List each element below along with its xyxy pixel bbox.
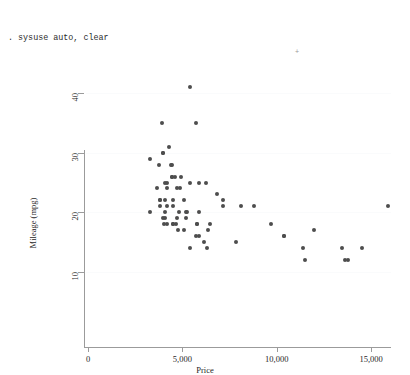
scatter-point [346, 258, 350, 262]
x-tick-0 [88, 347, 89, 352]
y-tick-label-text: 10 [69, 272, 79, 281]
plot-region [86, 150, 391, 346]
scatter-point [269, 222, 273, 226]
scatter-point [157, 163, 161, 167]
scatter-point [188, 246, 192, 250]
x-axis-line [84, 347, 391, 348]
scatter-point [208, 222, 212, 226]
scatter-point [194, 121, 198, 125]
scatter-point [176, 228, 180, 232]
scatter-point [204, 181, 208, 185]
scatter-point [221, 198, 225, 202]
scatter-point [386, 204, 390, 208]
y-tick-label-text: 30 [69, 153, 79, 162]
console-line: . sysuse auto, clear [8, 32, 308, 45]
scatter-point [171, 198, 175, 202]
scatter-point [282, 234, 286, 238]
scatter-point [171, 204, 175, 208]
x-tick-10000 [277, 347, 278, 352]
x-tick-label-10000: 10,000 [265, 354, 288, 364]
scatter-point [182, 228, 186, 232]
scatter-point [155, 186, 159, 190]
scatter-point [175, 216, 179, 220]
scatter-point [158, 198, 162, 202]
scatter-point [340, 246, 344, 250]
scatter-point [360, 246, 364, 250]
scatter-point [197, 210, 201, 214]
gridline-y-20 [86, 212, 391, 213]
scatter-point [195, 222, 199, 226]
scatter-point [179, 175, 183, 179]
scatter-point [188, 85, 192, 89]
scatter-point [163, 210, 167, 214]
x-tick-label-5000: 5,000 [173, 354, 192, 364]
scatter-point [252, 204, 256, 208]
scatter-point [215, 192, 219, 196]
scatter-point [167, 145, 171, 149]
y-tick-label-40: 40 [56, 88, 74, 98]
scatter-point [158, 204, 162, 208]
scatter-point [163, 181, 167, 185]
scatter-point [177, 210, 181, 214]
scatter-point [239, 204, 243, 208]
scatter-point [312, 228, 316, 232]
y-tick-label-20: 20 [56, 207, 74, 217]
x-tick-15000 [371, 347, 372, 352]
scatter-point [202, 240, 206, 244]
y-tick-label-10: 10 [56, 267, 74, 277]
scatter-point [161, 216, 165, 220]
scatter-point [148, 210, 152, 214]
scatter-point [197, 181, 201, 185]
scatter-point [165, 204, 169, 208]
scatter-point [173, 175, 177, 179]
scatter-point [221, 204, 225, 208]
gridline-y-30 [86, 153, 391, 154]
scatter-point [165, 186, 169, 190]
pointer-artifact-icon: + [295, 50, 299, 54]
y-tick-label-text: 20 [69, 212, 79, 221]
scatter-point [206, 228, 210, 232]
y-tick-label-30: 30 [56, 148, 74, 158]
scatter-point [182, 198, 186, 202]
gridline-y-40 [86, 93, 391, 94]
scatter-point [303, 258, 307, 262]
scatter-point [234, 240, 238, 244]
scatter-point [184, 216, 188, 220]
x-tick-label-15000: 15,000 [359, 354, 382, 364]
scatter-point [197, 234, 201, 238]
y-axis-line [84, 150, 85, 348]
scatter-point [148, 157, 152, 161]
y-tick-label-text: 40 [69, 93, 79, 102]
scatter-plot-graph: 10203040 05,00010,00015,000 Mileage (mpg… [0, 66, 410, 325]
scatter-point [185, 210, 189, 214]
gridline-y-10 [86, 272, 391, 273]
scatter-point [160, 121, 164, 125]
scatter-point [188, 181, 192, 185]
x-tick-5000 [182, 347, 183, 352]
scatter-point [205, 246, 209, 250]
scatter-point [165, 222, 169, 226]
y-axis-title: Mileage (mpg) [28, 168, 38, 278]
scatter-point [163, 198, 167, 202]
x-tick-label-0: 0 [86, 354, 90, 364]
x-axis-title: Price [0, 365, 410, 375]
scatter-point [170, 163, 174, 167]
scatter-point [301, 246, 305, 250]
scatter-point [161, 151, 165, 155]
